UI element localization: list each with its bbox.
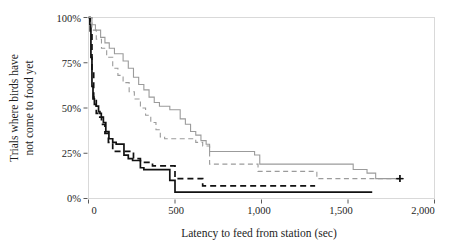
- x-axis-title: Latency to feed from station (sec): [181, 227, 337, 240]
- survival-curve-dashed-dark: [89, 18, 316, 186]
- x-tick-label-1500: 1,500: [329, 205, 353, 216]
- x-tick-label-0: 0: [91, 205, 96, 216]
- survival-curve-figure: 0 500 1,000 1,500 2,000 100% 75% 50% 25%…: [0, 0, 460, 246]
- x-tick-label-1000: 1,000: [247, 205, 271, 216]
- x-axis-ticks: [89, 200, 435, 204]
- survival-curve-dashed-light: [89, 18, 400, 179]
- y-axis-title-line1: Trials where birds have: [8, 54, 20, 162]
- curve-group: [89, 18, 400, 193]
- survival-curve-solid-light: [89, 18, 400, 179]
- y-axis-title-line2: not come to food yet: [23, 60, 36, 156]
- survival-curve-solid-dark: [89, 18, 373, 193]
- y-tick-label-0: 0%: [67, 193, 81, 204]
- y-tick-label-75: 75%: [62, 58, 82, 69]
- y-axis-ticks: [84, 18, 88, 199]
- x-tick-label-2000: 2,000: [411, 205, 435, 216]
- censor-mark-dashed-light-0: [396, 175, 403, 182]
- y-tick-label-100: 100%: [57, 13, 82, 24]
- y-tick-label-25: 25%: [62, 148, 82, 159]
- chart-canvas: 0 500 1,000 1,500 2,000 100% 75% 50% 25%…: [0, 0, 460, 246]
- y-tick-label-50: 50%: [62, 103, 82, 114]
- x-tick-label-500: 500: [168, 205, 184, 216]
- censor-mark-group: [396, 175, 403, 182]
